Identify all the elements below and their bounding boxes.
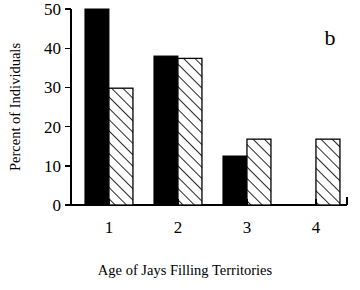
x-tick-label: 2 bbox=[174, 218, 183, 237]
y-axis-title: Percent of Individuals bbox=[7, 43, 23, 171]
bar bbox=[178, 58, 202, 205]
bar bbox=[154, 56, 178, 205]
y-tick-label: 10 bbox=[44, 157, 61, 176]
y-tick-label: 50 bbox=[44, 0, 61, 19]
y-tick-label: 40 bbox=[44, 39, 61, 58]
panel-label: b bbox=[325, 25, 336, 50]
x-axis-title: Age of Jays Filling Territories bbox=[98, 262, 273, 278]
bar bbox=[223, 156, 247, 205]
bar bbox=[109, 88, 133, 205]
y-tick-label: 0 bbox=[53, 196, 62, 215]
bar bbox=[316, 139, 340, 205]
x-tick-label: 3 bbox=[243, 218, 252, 237]
x-tick-label: 4 bbox=[312, 218, 321, 237]
chart-svg: 01020304050 1234 Age of Jays Filling Ter… bbox=[0, 0, 360, 290]
chart-figure: 01020304050 1234 Age of Jays Filling Ter… bbox=[0, 0, 360, 290]
bar bbox=[85, 9, 109, 205]
bar bbox=[247, 139, 271, 205]
y-tick-label: 20 bbox=[44, 118, 61, 137]
y-tick-label: 30 bbox=[44, 78, 61, 97]
x-tick-label: 1 bbox=[105, 218, 114, 237]
